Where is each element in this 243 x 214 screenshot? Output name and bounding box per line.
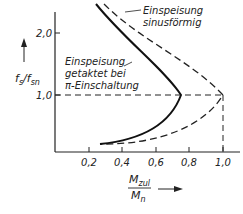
x-tick-label: 0,4	[114, 157, 130, 168]
annotation-getaktet-line3: π-Einschaltung	[65, 80, 139, 91]
x-arrow-icon	[174, 186, 183, 192]
x-ticks	[89, 147, 223, 152]
annotation-getaktet-line1: Einspeisung	[65, 56, 125, 67]
x-tick-label: 0,2	[81, 157, 97, 168]
annotation-sinus-line1: Einspeisung	[143, 5, 203, 16]
x-tick-label: 1,0	[215, 157, 231, 168]
y-axis-label: fs/fsn	[15, 72, 40, 87]
leader-line-sinus	[125, 10, 141, 12]
annotation-sinus-line2: sinusförmig	[143, 17, 202, 28]
x-tick-label: 0,8	[181, 157, 197, 168]
y-tick-label-2: 2,0	[36, 28, 52, 39]
x-tick-label: 0,6	[148, 157, 164, 168]
y-tick-label-1: 1,0	[36, 90, 52, 101]
y-arrow-icon	[21, 38, 27, 47]
annotation-getaktet-line2: getaktet bei	[65, 68, 126, 79]
chart: 2,0 1,0 0,2 0,4 0,6 0,8 1,0 Einspeisung …	[0, 0, 243, 214]
leader-line-getaktet	[124, 62, 132, 66]
x-axis-label-numerator: Mzul	[129, 173, 151, 188]
x-axis-label-denominator: Mn	[131, 189, 146, 204]
